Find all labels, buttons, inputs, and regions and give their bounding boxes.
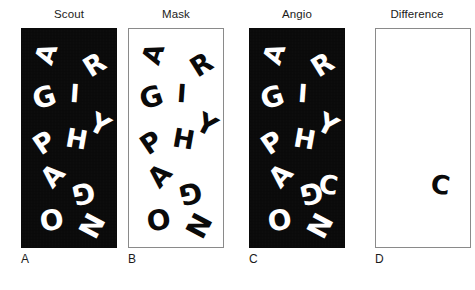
panel-difference[interactable]: C xyxy=(375,28,471,248)
glyph-mask-a-0: A xyxy=(138,40,169,67)
glyph-angio-a-7: A xyxy=(263,159,297,193)
glyph-mask-o-9: O xyxy=(145,205,172,236)
panel-mask[interactable]: ARGIYPHAGON xyxy=(128,28,224,248)
glyph-angio-y-4: Y xyxy=(313,108,343,141)
glyph-angio-p-5: P xyxy=(256,126,288,159)
panel-angio[interactable]: ARGIYPHAGCON xyxy=(249,28,345,248)
glyph-mask-g-2: G xyxy=(136,81,167,115)
glyph-scout-o-9: O xyxy=(38,205,65,236)
panel-label-b: B xyxy=(128,252,136,266)
glyph-scout-a-0: A xyxy=(31,40,62,67)
glyph-angio-g-2: G xyxy=(257,81,288,115)
glyph-mask-n-10: N xyxy=(180,208,216,242)
panel-label-a: A xyxy=(21,252,29,266)
panel-title-difference: Difference xyxy=(357,8,475,20)
glyph-scout-n-10: N xyxy=(73,208,109,242)
glyph-mask-y-4: Y xyxy=(192,108,222,141)
glyph-scout-y-4: Y xyxy=(85,108,115,141)
glyph-mask-r-1: R xyxy=(185,48,217,82)
glyph-scout-a-7: A xyxy=(35,159,69,193)
glyph-scout-p-5: P xyxy=(28,126,60,159)
panel-label-c: C xyxy=(249,252,258,266)
panel-title-mask: Mask xyxy=(116,8,236,20)
glyph-mask-a-7: A xyxy=(142,159,176,193)
glyph-scout-g-2: G xyxy=(29,81,60,115)
glyph-angio-n-11: N xyxy=(301,208,337,242)
glyph-mask-g-8: G xyxy=(176,177,204,209)
glyph-mask-i-3: I xyxy=(176,81,187,107)
panel-title-angio: Angio xyxy=(237,8,357,20)
glyph-angio-o-10: O xyxy=(266,205,293,236)
panel-label-d: D xyxy=(375,252,384,266)
glyph-scout-h-6: H xyxy=(64,124,90,153)
panel-scout[interactable]: ARGIYPHAGON xyxy=(21,28,117,248)
glyph-angio-r-1: R xyxy=(306,48,338,82)
glyph-mask-h-6: H xyxy=(171,124,197,153)
glyph-scout-g-8: G xyxy=(69,177,97,209)
glyph-difference-c-0: C xyxy=(429,171,452,199)
glyph-scout-i-3: I xyxy=(69,81,80,107)
glyph-angio-i-3: I xyxy=(297,81,308,107)
glyph-mask-p-5: P xyxy=(135,126,167,159)
glyph-angio-h-6: H xyxy=(292,124,318,153)
glyph-scout-r-1: R xyxy=(78,48,110,82)
glyph-angio-c-9: C xyxy=(317,171,340,199)
panel-title-scout: Scout xyxy=(9,8,129,20)
glyph-angio-a-0: A xyxy=(259,40,290,67)
